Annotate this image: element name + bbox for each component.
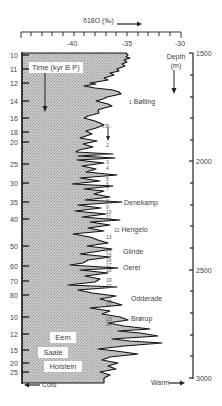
event-label: Odderade: [131, 295, 162, 302]
x-tick-label: -30: [175, 40, 185, 47]
x-axis-arrow-icon: [117, 22, 142, 27]
x-tick-label: -35: [122, 40, 132, 47]
depth-tick-label: 2500: [196, 267, 212, 274]
y-tick-label: 25: [10, 369, 18, 376]
y-tick-label: 40: [10, 216, 18, 223]
y-tick-label: 50: [10, 243, 18, 250]
period-label-holstein: Holstein: [44, 361, 82, 372]
time-axis-title: Time (kyr B P): [29, 62, 83, 73]
period-label-eem: Eem: [50, 332, 76, 343]
y-tick-label: 15: [10, 347, 18, 354]
y-tick-label: 30: [10, 180, 18, 187]
event-label: 1 Bølling: [129, 98, 155, 105]
event-num: 4: [106, 166, 109, 171]
y-tick-label: 70: [10, 278, 18, 285]
y-tick-label: 11: [10, 66, 17, 73]
y-tick-label: 14: [10, 98, 18, 105]
depth-tick-label: 3000: [196, 375, 212, 382]
event-num: 11: [106, 215, 111, 220]
y-tick-label: 12: [10, 80, 18, 87]
y-tick-label: 35: [10, 199, 18, 206]
depth-axis-title: Depth (m): [163, 52, 189, 70]
depth-tick-label: 1500: [196, 50, 212, 57]
x-tick-label: -40: [67, 40, 77, 47]
y-tick-label: 20: [10, 360, 18, 367]
y-axis-right: [189, 53, 193, 379]
event-label: Denekamp: [124, 199, 158, 206]
y-tick-label: 10: [10, 52, 18, 59]
event-num: 22: [106, 302, 112, 307]
y-tick-label: 12: [10, 331, 18, 338]
cold-label: Cold: [42, 381, 56, 388]
y-tick-label: 16: [10, 115, 18, 122]
period-label-saale: Saale: [38, 347, 68, 358]
y-tick-label: 10: [10, 314, 18, 321]
event-num: 7: [106, 187, 109, 192]
event-num: 2: [106, 143, 109, 148]
event-num: 24: [106, 322, 112, 327]
event-label: Glinde: [123, 248, 143, 255]
warm-arrow-icon: [169, 381, 185, 386]
y-tick-label: 18: [10, 129, 18, 136]
y-tick-label: 20: [10, 139, 18, 146]
event-num: 13: [106, 235, 112, 240]
y-tick-label: 25: [10, 161, 18, 168]
event-num: 20: [106, 284, 112, 289]
y-tick-label: 80: [10, 292, 18, 299]
depth-arrow-icon: [172, 70, 177, 94]
depth-tick-label: 2000: [196, 158, 212, 165]
event-label: Oerel: [123, 264, 140, 271]
x-axis: [21, 32, 181, 38]
y-tick-label: 60: [10, 263, 18, 270]
event-label: Brørup: [131, 315, 152, 322]
event-label: I.S.: [102, 123, 111, 130]
warm-label: Warm: [151, 379, 169, 386]
event-num: 18: [106, 268, 112, 273]
event-label: 12 Hengelo: [114, 226, 148, 233]
